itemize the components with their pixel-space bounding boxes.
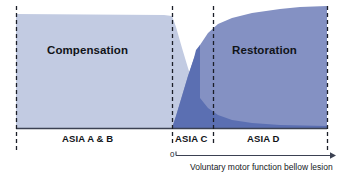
figure-container: Compensation Restoration ASIA A & B ASIA… — [0, 0, 343, 181]
x-axis-origin-label: 0 — [170, 150, 174, 159]
x-axis-caption: Voluntary motor function bellow lesion — [190, 162, 333, 172]
x-axis-arrowhead-icon — [330, 152, 336, 158]
x-band-label-asia-d: ASIA D — [247, 133, 279, 144]
series-label-restoration: Restoration — [232, 44, 297, 56]
x-band-label-asia-c: ASIA C — [175, 133, 207, 144]
series-label-compensation: Compensation — [47, 44, 128, 56]
x-band-label-asia-ab: ASIA A & B — [62, 133, 113, 144]
